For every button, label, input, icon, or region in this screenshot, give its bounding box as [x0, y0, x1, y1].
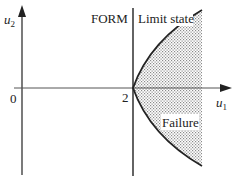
diagram-canvas: u2 0 2 u1 FORM Limit state Failure	[0, 0, 245, 179]
u1-axis-arrow-icon	[220, 84, 232, 92]
u2-label: u2	[4, 12, 15, 29]
origin-label: 0	[10, 91, 17, 106]
limit-state-label: Limit state	[138, 11, 194, 26]
u2-axis-arrow-icon	[18, 5, 26, 17]
failure-label: Failure	[162, 115, 199, 130]
form-label: FORM	[91, 11, 128, 26]
form-limit-state-diagram: u2 0 2 u1 FORM Limit state Failure	[0, 0, 245, 179]
tick-label-2: 2	[122, 90, 129, 105]
u1-label: u1	[216, 95, 227, 112]
